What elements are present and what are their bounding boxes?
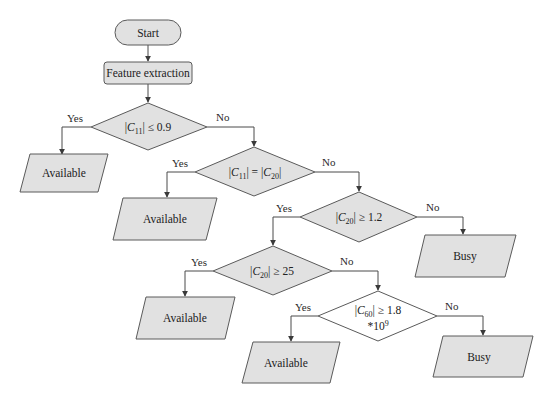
output-busy-1: Busy	[415, 235, 516, 277]
edges	[62, 45, 483, 341]
edge-label-d2-no: No	[322, 156, 336, 168]
output-busy-2-label: Busy	[467, 351, 491, 364]
output-available-2: Available	[113, 198, 217, 240]
edge-d2-no	[315, 172, 359, 191]
edge-d4-no	[332, 271, 378, 290]
decision-d1: |C11| ≤ 0.9	[91, 103, 207, 150]
edge-label-d5-yes: Yes	[295, 301, 311, 313]
output-available-4-label: Available	[264, 357, 308, 369]
edge-label-d1-yes: Yes	[67, 112, 83, 124]
output-available-3-label: Available	[163, 312, 207, 324]
edge-d3-no	[417, 217, 463, 234]
edge-label-d5-no: No	[445, 300, 459, 312]
output-busy-2: Busy	[433, 336, 533, 377]
output-available-3: Available	[136, 297, 235, 339]
edge-label-d4-no: No	[340, 255, 354, 267]
edge-d5-no	[437, 316, 483, 335]
decision-d3: |C20| ≥ 1.2	[300, 192, 417, 242]
output-available-2-label: Available	[143, 213, 187, 225]
node-feature-label: Feature extraction	[106, 67, 190, 79]
edge-d1-yes	[62, 127, 91, 154]
edge-d2-yes	[167, 172, 195, 197]
edge-label-d2-yes: Yes	[172, 157, 188, 169]
node-feature-extraction: Feature extraction	[104, 62, 192, 84]
edge-d1-no	[207, 127, 254, 146]
output-available-4: Available	[242, 342, 340, 383]
edge-label-d4-yes: Yes	[191, 256, 207, 268]
node-start-label: Start	[137, 27, 160, 39]
flowchart-canvas: Yes No Yes No Yes No Yes No Yes No Start…	[0, 0, 551, 402]
node-start: Start	[115, 20, 181, 45]
output-available-1: Available	[20, 154, 108, 192]
edge-d3-yes	[273, 217, 300, 245]
decision-d4: |C20| ≥ 25	[213, 246, 332, 295]
output-available-1-label: Available	[42, 167, 86, 179]
edge-label-d3-yes: Yes	[276, 202, 292, 214]
decision-d5: |C60| ≥ 1.8 *109	[318, 291, 437, 341]
decision-d2: |C11| = |C20|	[195, 147, 315, 196]
output-busy-1-label: Busy	[453, 250, 477, 263]
edge-label-d3-no: No	[426, 201, 440, 213]
edge-d4-yes	[185, 271, 213, 296]
edge-d5-yes	[291, 316, 318, 341]
edge-label-d1-no: No	[216, 111, 230, 123]
